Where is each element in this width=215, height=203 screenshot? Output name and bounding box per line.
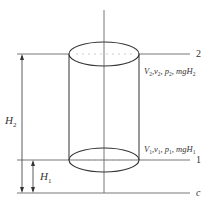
h1-label: H1 xyxy=(39,170,52,185)
h1-arrow-up-icon xyxy=(31,160,35,166)
datum-c-label: c xyxy=(196,187,201,198)
level-1-variables: V1,v1, p1, mgH1 xyxy=(144,144,196,155)
level-2-variables: V2,v2, p2, mgH2 xyxy=(144,66,196,77)
h2-arrow-up-icon xyxy=(20,54,24,60)
level-2-label: 2 xyxy=(196,48,201,59)
h1-arrow-down-icon xyxy=(31,187,35,193)
h2-arrow-down-icon xyxy=(20,187,24,193)
bernoulli-cylinder-diagram: H2 H1 2 1 c V2,v2, p2, mgH2 V1,v1, p1, m… xyxy=(0,0,215,203)
h2-label: H2 xyxy=(4,114,17,129)
level-1-label: 1 xyxy=(196,154,201,165)
